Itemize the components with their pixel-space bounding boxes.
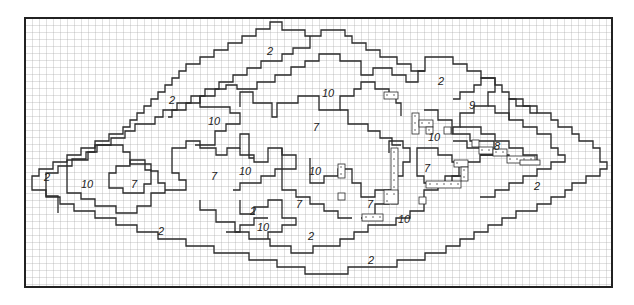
zone-label: 10 xyxy=(428,131,441,143)
zone-label: 9 xyxy=(469,99,475,111)
contour-diagram: 222222222101010101010101077777798 xyxy=(0,0,634,305)
zone-label: 2 xyxy=(43,171,50,183)
zone-label: 2 xyxy=(266,45,273,57)
zone-label: 10 xyxy=(208,115,221,127)
zone-label: 10 xyxy=(398,213,411,225)
zone-label: 10 xyxy=(322,87,335,99)
zone-label: 10 xyxy=(257,221,270,233)
zone-label: 7 xyxy=(211,170,218,182)
zone-label: 8 xyxy=(494,140,501,152)
zone-label: 2 xyxy=(533,180,540,192)
zone-label: 2 xyxy=(437,75,444,87)
zone-label: 2 xyxy=(157,225,164,237)
zone-label: 10 xyxy=(309,165,322,177)
zone-label: 2 xyxy=(367,254,374,266)
zone-label: 7 xyxy=(131,178,138,190)
zone-label: 7 xyxy=(367,198,374,210)
zone-label: 7 xyxy=(313,121,320,133)
zone-label: 7 xyxy=(424,162,431,174)
zone-label: 2 xyxy=(168,94,175,106)
zone-label: 10 xyxy=(239,165,252,177)
zone-label: 2 xyxy=(307,230,314,242)
zone-label: 10 xyxy=(81,178,94,190)
zone-label: 2 xyxy=(249,205,256,217)
zone-label: 7 xyxy=(296,198,303,210)
